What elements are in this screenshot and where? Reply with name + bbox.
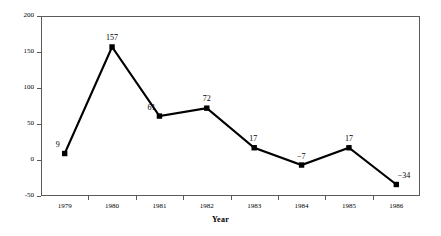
x-tick-label: 1986	[372, 203, 420, 210]
point-value-label: 61	[147, 104, 155, 112]
y-tick-label: 200	[4, 12, 34, 19]
y-tick-label: 150	[4, 48, 34, 55]
point-value-label: −7	[297, 153, 306, 161]
x-tick-label: 1985	[325, 203, 373, 210]
point-value-label: 72	[203, 95, 211, 103]
y-tick-label: -50	[4, 192, 34, 199]
x-tick-mark	[183, 196, 184, 200]
x-tick-label: 1983	[230, 203, 278, 210]
point-value-label: −34	[398, 172, 411, 180]
x-tick-label: 1980	[88, 203, 136, 210]
x-tick-mark	[88, 196, 89, 200]
x-tick-mark	[325, 196, 326, 200]
x-tick-label: 1984	[278, 203, 326, 210]
x-tick-mark	[136, 196, 137, 200]
plot-frame	[41, 16, 420, 196]
y-tick-label: 50	[4, 120, 34, 127]
line-chart: -50050100150200 197919801981198219831984…	[0, 0, 441, 236]
x-tick-label: 1981	[135, 203, 183, 210]
y-tick-mark	[37, 16, 41, 17]
y-tick-mark	[37, 88, 41, 89]
x-tick-label: 1979	[41, 203, 89, 210]
y-tick-mark	[37, 160, 41, 161]
point-value-label: 17	[345, 135, 353, 143]
x-tick-mark	[278, 196, 279, 200]
x-tick-mark	[231, 196, 232, 200]
x-tick-label: 1982	[183, 203, 231, 210]
y-tick-mark	[37, 124, 41, 125]
y-tick-mark	[37, 196, 41, 197]
point-value-label: 157	[106, 34, 118, 42]
y-tick-mark	[37, 52, 41, 53]
y-tick-label: 0	[4, 156, 34, 163]
point-value-label: 17	[249, 135, 257, 143]
x-axis-title: Year	[0, 215, 441, 224]
y-tick-label: 100	[4, 84, 34, 91]
point-value-label: 9	[56, 141, 60, 149]
x-tick-mark	[373, 196, 374, 200]
